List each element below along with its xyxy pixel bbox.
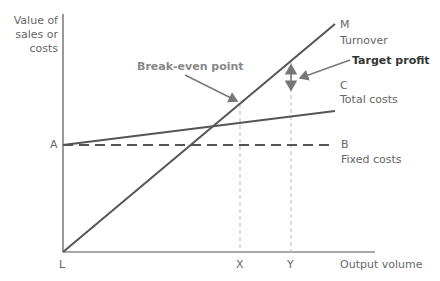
x-label: X (236, 258, 244, 271)
break-even-label: Break-even point (137, 60, 244, 73)
break-even-pointer (185, 75, 237, 101)
turnover-label: Turnover (340, 34, 388, 47)
y-label-line: costs (12, 42, 58, 56)
origin-label: L (59, 258, 65, 271)
b-label: B (341, 138, 349, 151)
y-label: Y (287, 258, 294, 271)
c-label: C (340, 79, 348, 92)
target-profit-pointer (300, 60, 350, 78)
m-label: M (340, 18, 350, 31)
turnover-line (63, 24, 335, 252)
y-axis-label: Value of sales or costs (12, 14, 58, 56)
total-costs-label: Total costs (340, 93, 398, 106)
target-profit-label: Target profit (352, 54, 430, 67)
total-costs-line (63, 111, 335, 145)
y-label-line: Value of (12, 14, 58, 28)
a-label: A (50, 138, 58, 151)
y-label-line: sales or (12, 28, 58, 42)
fixed-costs-label: Fixed costs (341, 153, 402, 166)
x-axis-label: Output volume (340, 258, 422, 271)
